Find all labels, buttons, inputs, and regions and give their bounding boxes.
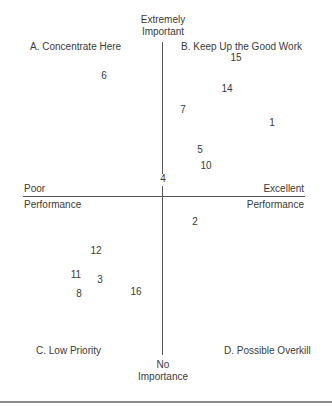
- data-point-7: 7: [180, 105, 186, 115]
- performance-right-label: Performance: [247, 199, 304, 211]
- vertical-axis-upper: [162, 42, 163, 174]
- data-point-3: 3: [97, 275, 103, 285]
- data-point-1: 1: [269, 118, 275, 128]
- vertical-axis-lower: [162, 186, 163, 355]
- quadrant-a-label: A. Concentrate Here: [30, 41, 121, 53]
- horizontal-axis: [23, 196, 305, 197]
- poor-label: Poor: [24, 183, 45, 195]
- no-importance-label: No Importance: [133, 359, 193, 383]
- data-point-5: 5: [197, 145, 203, 155]
- data-point-11: 11: [71, 270, 81, 280]
- quadrant-d-label: D. Possible Overkill: [224, 345, 311, 357]
- data-point-6: 6: [101, 71, 107, 81]
- data-point-4: 4: [160, 174, 166, 184]
- importance-performance-chart: Extremely Important A. Concentrate Here …: [0, 0, 332, 406]
- performance-left-label: Performance: [24, 199, 81, 211]
- quadrant-b-label: B. Keep Up the Good Work: [181, 41, 302, 53]
- y-axis-bottom-label: No Importance: [133, 359, 193, 383]
- data-point-12: 12: [90, 246, 101, 256]
- data-point-14: 14: [221, 84, 232, 94]
- data-point-16: 16: [130, 287, 141, 297]
- extremely-important-label: Extremely Important: [133, 14, 193, 38]
- bottom-rule: [0, 401, 332, 403]
- quadrant-c-label: C. Low Priority: [36, 345, 101, 357]
- data-point-8: 8: [76, 289, 82, 299]
- y-axis-top-label: Extremely Important: [133, 14, 193, 38]
- excellent-label: Excellent: [263, 183, 304, 195]
- data-point-15: 15: [230, 53, 241, 63]
- data-point-2: 2: [192, 217, 198, 227]
- data-point-10: 10: [200, 161, 211, 171]
